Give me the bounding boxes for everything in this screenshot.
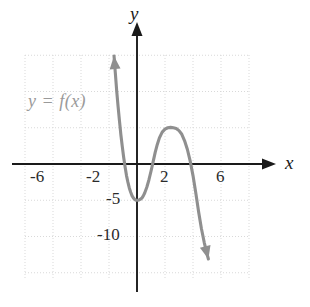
y-axis-label: y	[130, 4, 138, 23]
function-label: y = f(x)	[28, 92, 86, 110]
ytick-label-neg5: -5	[106, 190, 120, 207]
xtick-label-neg2: -2	[86, 168, 100, 185]
function-curve	[114, 56, 208, 259]
xtick-label-pos6: 6	[216, 168, 225, 185]
xtick-label-pos2: 2	[160, 168, 169, 185]
x-axis-arrowhead	[262, 159, 276, 170]
ytick-label-neg10: -10	[97, 226, 120, 243]
graph-figure: x y y = f(x) -6 -2 2 6 -5 -10	[0, 0, 310, 307]
coordinate-plane	[0, 0, 310, 307]
function-curve-group	[110, 56, 211, 259]
axes	[12, 22, 276, 292]
x-axis-label: x	[285, 153, 293, 172]
xtick-label-neg6: -6	[30, 168, 44, 185]
y-axis-arrowhead	[132, 22, 143, 36]
